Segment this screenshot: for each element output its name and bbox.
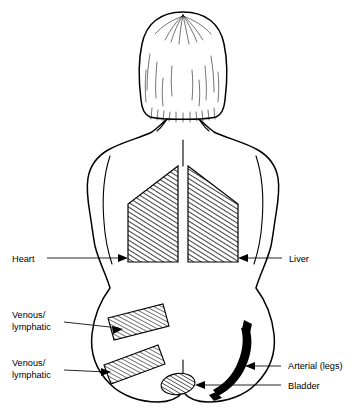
label-bladder: Bladder [288,381,320,391]
label-liver: Liver [289,254,309,264]
label-arterial-legs: Arterial (legs) [288,361,343,371]
label-venous-lymphatic-lower-line1: Venous/ [12,358,46,368]
hair-outline [139,12,227,119]
label-venous-lymphatic-upper-line2: lymphatic [12,322,51,332]
label-venous-lymphatic-lower-line2: lymphatic [12,370,51,380]
label-heart: Heart [12,254,35,264]
label-venous-lymphatic-upper-line1: Venous/ [12,310,46,320]
head-hair [139,12,227,122]
figure-canvas: Heart Liver Venous/ lymphatic Venous/ ly… [0,0,363,420]
body-silhouette [87,112,279,402]
anatomical-figure: Heart Liver Venous/ lymphatic Venous/ ly… [0,0,363,420]
